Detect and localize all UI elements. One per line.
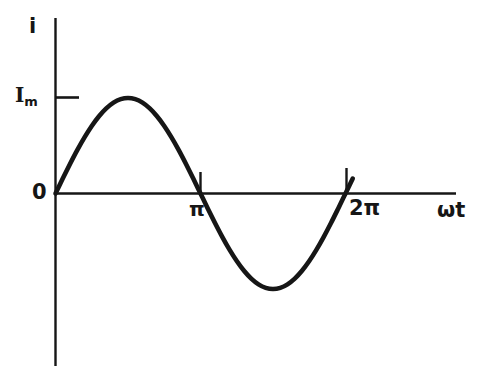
x-axis-label: ωt [437,200,465,221]
sine-wave-figure: i Im 0 π 2π ωt [0,0,497,376]
plot-canvas [0,0,497,376]
origin-label: 0 [32,182,47,203]
x-tick-label-pi: π [189,199,205,219]
amplitude-subscript: m [24,94,38,109]
y-axis-label: i [29,16,36,37]
amplitude-symbol: I [15,83,24,107]
amplitude-label: Im [15,85,38,108]
x-tick-label-2pi: 2π [349,198,380,219]
